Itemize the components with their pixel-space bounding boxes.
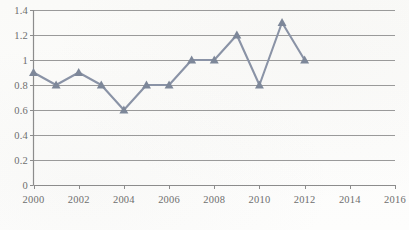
- y-axis-tick-label: 0.6: [2, 105, 28, 116]
- y-axis-tick-label: 0: [2, 180, 28, 191]
- x-axis-tick-label: 2006: [147, 194, 191, 205]
- data-point-marker: [255, 81, 264, 89]
- data-point-marker: [74, 68, 83, 76]
- line-chart: 00.20.40.60.811.21.4 2000200220042006200…: [0, 0, 409, 230]
- x-axis-tick-label: 2010: [237, 194, 281, 205]
- data-point-marker: [97, 81, 106, 89]
- y-axis-tick-label: 1.2: [2, 30, 28, 41]
- x-axis-tick-label: 2014: [328, 194, 372, 205]
- y-axis-tick-label: 1.4: [2, 5, 28, 16]
- x-axis-tick-label: 2002: [57, 194, 101, 205]
- data-point-marker: [232, 31, 241, 39]
- data-point-marker: [29, 68, 38, 76]
- x-axis-tick-label: 2008: [192, 194, 236, 205]
- y-axis-tick-label: 0.4: [2, 130, 28, 141]
- y-axis-tick-label: 0.8: [2, 80, 28, 91]
- x-axis-tick-label: 2000: [12, 194, 56, 205]
- x-axis-tick-label: 2004: [102, 194, 146, 205]
- gridline-group: [30, 11, 395, 186]
- data-point-marker: [278, 18, 287, 26]
- x-axis-tick-label: 2012: [283, 194, 327, 205]
- x-axis-tick-label: 2016: [373, 194, 409, 205]
- data-point-marker: [52, 81, 61, 89]
- y-axis-tick-label: 1: [2, 55, 28, 66]
- y-axis-tick-label: 0.2: [2, 155, 28, 166]
